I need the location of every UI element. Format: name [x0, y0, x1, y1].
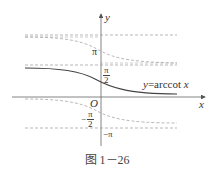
function-label: y=arccot x	[143, 79, 189, 90]
tick-label-neg-pi-half: π 2	[87, 110, 94, 129]
neg-sign: −	[81, 115, 86, 124]
pi-half-denominator: 2	[104, 76, 109, 85]
tick-label-pi-half: π 2	[103, 66, 110, 85]
origin-label: O	[90, 98, 98, 109]
y-axis-label: y	[105, 12, 110, 23]
tick-label-neg-pi: −π	[103, 130, 113, 139]
figure-caption: 图 1－26	[0, 150, 214, 168]
neg-pi-half-denominator: 2	[88, 120, 93, 129]
tick-label-pi: π	[92, 47, 97, 57]
x-axis-label: x	[199, 99, 204, 110]
